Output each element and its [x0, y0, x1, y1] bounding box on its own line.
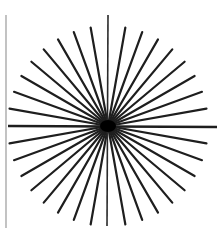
starburst-diagram — [0, 0, 217, 228]
center-hub — [100, 120, 116, 132]
starburst-svg — [0, 0, 217, 228]
